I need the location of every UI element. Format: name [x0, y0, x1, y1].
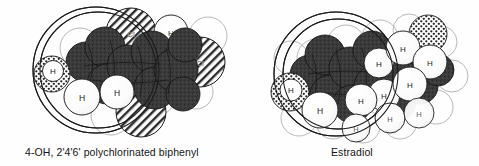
svg-text:H: H [407, 81, 413, 90]
molecular-comparison-figure: Cl Cl Cl H [0, 0, 479, 166]
svg-text:H: H [427, 59, 433, 68]
svg-text:H: H [114, 88, 120, 98]
svg-text:H: H [387, 115, 392, 124]
pcb-hydrogen-lower-left: H [64, 79, 100, 115]
svg-text:H: H [50, 67, 56, 76]
molecule-canvas: Cl Cl Cl H [0, 0, 479, 166]
estradiol-molecule: H H H H H [271, 12, 468, 143]
svg-text:H: H [416, 110, 421, 119]
svg-text:H: H [400, 45, 406, 54]
svg-text:H: H [358, 97, 364, 106]
svg-text:H: H [288, 86, 294, 95]
pcb-hydroxyl-group: H [34, 56, 70, 92]
svg-text:H: H [376, 60, 382, 69]
caption-estradiol: Estradiol [331, 146, 373, 158]
pcb-molecule: Cl Cl Cl H [33, 7, 227, 137]
caption-pcb: 4-OH, 2'4'6' polychlorinated biphenyl [25, 146, 199, 158]
h-atom: H [404, 98, 434, 128]
pcb-hydrogen-lower-right: H [100, 75, 134, 109]
svg-text:H: H [317, 106, 323, 116]
svg-text:H: H [79, 93, 85, 103]
svg-text:Cl: Cl [127, 30, 135, 39]
h-atom: H [345, 84, 377, 116]
h-atom: H [302, 92, 338, 128]
